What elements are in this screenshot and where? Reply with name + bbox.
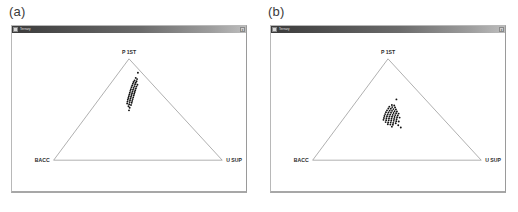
scatter-point: [128, 94, 130, 96]
scatter-point: [128, 109, 130, 111]
scatter-point: [390, 120, 392, 122]
ternary-plot-b: P 1ST BACC U SUP: [271, 33, 505, 191]
scatter-point: [399, 117, 401, 119]
ternary-vertex-left-label: BACC: [294, 157, 309, 163]
scatter-point: [131, 102, 133, 104]
scatter-point: [383, 117, 385, 119]
scatter-point: [388, 112, 390, 114]
scatter-point: [389, 110, 391, 112]
scatter-point: [128, 103, 130, 105]
panel-a-caption: (a): [9, 4, 26, 19]
scatter-point: [396, 118, 398, 120]
scatter-point: [391, 126, 393, 128]
scatter-point: [397, 114, 399, 116]
figure-container: (a) Ternary x P 1ST BACC U SUP (b): [0, 0, 518, 212]
scatter-point: [391, 110, 393, 112]
scatter-point: [129, 101, 131, 103]
scatter-point: [389, 114, 391, 116]
scatter-point: [392, 108, 394, 110]
scatter-point: [391, 116, 393, 118]
scatter-point: [394, 114, 396, 116]
scatter-point: [128, 105, 130, 107]
scatter-point: [396, 116, 398, 118]
scatter-point: [127, 97, 129, 99]
window-title: Ternary: [20, 27, 240, 32]
scatter-point: [382, 119, 384, 121]
panel-a-window: Ternary x P 1ST BACC U SUP: [11, 25, 247, 193]
scatter-point: [390, 112, 392, 114]
scatter-point: [391, 104, 393, 106]
panel-a-titlebar[interactable]: Ternary x: [12, 26, 246, 33]
scatter-point: [393, 112, 395, 114]
scatter-point: [386, 109, 388, 111]
ternary-plot-a: P 1ST BACC U SUP: [12, 33, 246, 191]
panel-b: (b) Ternary x P 1ST BACC U SUP: [259, 0, 518, 212]
panel-b-plot-area: P 1ST BACC U SUP: [271, 33, 505, 191]
scatter-point: [133, 85, 135, 87]
scatter-point: [397, 124, 399, 126]
scatter-point: [127, 101, 129, 103]
ternary-triangle-b: [313, 59, 482, 160]
scatter-point: [392, 114, 394, 116]
scatter-point: [400, 127, 402, 129]
scatter-point: [135, 86, 137, 88]
scatter-point: [398, 121, 400, 123]
scatter-point: [387, 113, 389, 115]
ternary-triangle-a: [54, 59, 223, 160]
scatter-point: [389, 124, 391, 126]
scatter-point: [127, 99, 129, 101]
scatter-point: [136, 84, 138, 86]
scatter-point: [131, 94, 133, 96]
scatter-point: [130, 104, 132, 106]
scatter-point: [130, 88, 132, 90]
scatter-point: [136, 78, 138, 80]
scatter-point: [386, 115, 388, 117]
scatter-point: [395, 112, 397, 114]
scatter-point: [132, 98, 134, 100]
scatter-point: [131, 86, 133, 88]
scatter-point: [131, 85, 133, 87]
scatter-point: [137, 72, 139, 74]
scatter-point: [398, 113, 400, 115]
scatter-point: [133, 93, 135, 95]
scatter-point: [134, 91, 136, 93]
ternary-points-b: [382, 98, 401, 128]
scatter-point: [387, 121, 389, 123]
scatter-point: [392, 124, 394, 126]
ternary-vertex-left-label: BACC: [35, 157, 50, 163]
scatter-point: [384, 115, 386, 117]
scatter-point: [132, 83, 134, 85]
scatter-point: [390, 122, 392, 124]
scatter-point: [129, 92, 131, 94]
scatter-point: [133, 81, 135, 83]
scatter-point: [385, 111, 387, 113]
scatter-point: [385, 119, 387, 121]
scatter-point: [386, 117, 388, 119]
app-icon: [272, 27, 277, 32]
scatter-point: [132, 89, 134, 91]
scatter-point: [395, 120, 397, 122]
ternary-vertex-top-label: P 1ST: [122, 49, 137, 55]
scatter-point: [130, 96, 132, 98]
close-icon[interactable]: x: [499, 27, 504, 32]
scatter-point: [131, 92, 133, 94]
scatter-point: [384, 113, 386, 115]
scatter-point: [133, 95, 135, 97]
scatter-point: [391, 106, 393, 108]
close-icon[interactable]: x: [240, 27, 245, 32]
scatter-point: [393, 105, 395, 107]
scatter-point: [129, 107, 131, 109]
scatter-point: [395, 98, 397, 100]
scatter-point: [129, 99, 131, 101]
panel-b-titlebar[interactable]: Ternary x: [271, 26, 505, 33]
scatter-point: [394, 106, 396, 108]
scatter-point: [388, 117, 390, 119]
scatter-point: [387, 123, 389, 125]
scatter-point: [128, 95, 130, 97]
scatter-point: [131, 100, 133, 102]
scatter-point: [129, 90, 131, 92]
scatter-point: [389, 116, 391, 118]
scatter-point: [132, 96, 134, 98]
scatter-point: [134, 83, 136, 85]
scatter-point: [130, 98, 132, 100]
